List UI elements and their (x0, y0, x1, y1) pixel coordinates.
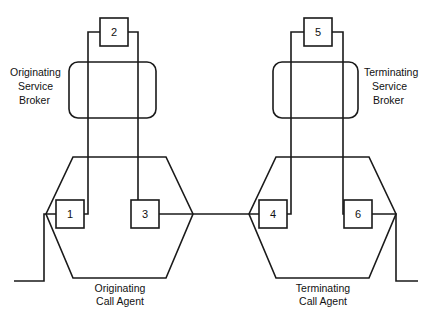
originating-service-broker-line-3: Broker (19, 94, 50, 106)
terminating-service-broker-line-2: Service (372, 80, 407, 92)
node-2-label: 2 (111, 26, 117, 38)
network-diagram: 1 2 3 4 5 6 Originating Service Broker (0, 0, 431, 325)
originating-call-agent-line-1: Originating (95, 282, 146, 294)
node-4[interactable]: 4 (259, 200, 287, 228)
wire-node5-to-node4 (275, 32, 304, 214)
node-4-label: 4 (270, 208, 276, 220)
wire-node2-to-node3 (128, 32, 145, 214)
node-3-label: 3 (142, 208, 148, 220)
terminating-service-broker-line-1: Terminating (364, 66, 418, 78)
node-5[interactable]: 5 (304, 18, 332, 46)
originating-call-agent-line-2: Call Agent (96, 295, 144, 307)
node-1-label: 1 (67, 208, 73, 220)
originating-service-broker-line-2: Service (18, 80, 53, 92)
originating-service-broker-shape (69, 62, 156, 118)
terminating-service-broker-caption: Terminating Service Broker (364, 66, 418, 106)
node-1[interactable]: 1 (56, 200, 84, 228)
terminating-call-agent-line-1: Terminating (296, 282, 350, 294)
wire-node6-to-external-right (372, 214, 418, 281)
wire-node5-to-node6 (332, 32, 358, 214)
terminating-service-broker-line-3: Broker (373, 94, 404, 106)
originating-service-broker-line-1: Originating (10, 66, 61, 78)
terminating-service-broker-shape (273, 62, 358, 118)
terminating-call-agent-caption: Terminating Call Agent (296, 282, 350, 307)
originating-call-agent-caption: Originating Call Agent (95, 282, 146, 307)
node-2[interactable]: 2 (100, 18, 128, 46)
node-6[interactable]: 6 (344, 200, 372, 228)
wire-node2-to-node1 (72, 32, 100, 214)
node-5-label: 5 (315, 26, 321, 38)
diagram-canvas: 1 2 3 4 5 6 Originating Service Broker (0, 0, 431, 325)
node-6-label: 6 (355, 208, 361, 220)
originating-service-broker-caption: Originating Service Broker (10, 66, 61, 106)
terminating-call-agent-line-2: Call Agent (299, 295, 347, 307)
node-3[interactable]: 3 (131, 200, 159, 228)
